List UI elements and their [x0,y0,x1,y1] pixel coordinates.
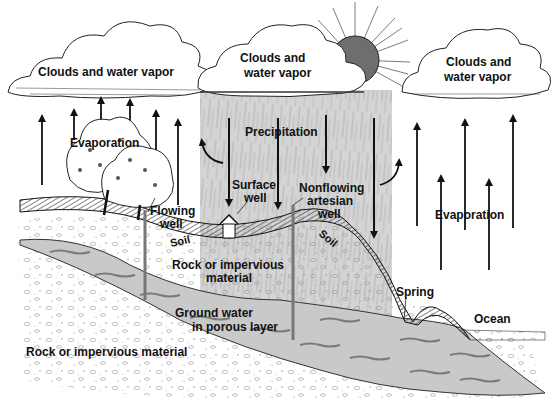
label-groundwater-2: in porous layer [192,321,278,334]
label-nonflowing-3: well [318,208,341,221]
evaporation-arrows-right [417,118,513,270]
label-clouds-center-2: water vapor [244,67,311,80]
label-rock-upper-2: material [206,272,252,285]
label-clouds-left: Clouds and water vapor [38,66,174,79]
label-surface-well-2: well [244,192,267,205]
label-ocean: Ocean [474,313,511,326]
label-precipitation: Precipitation [245,126,318,139]
label-evaporation-left: Evaporation [70,137,139,150]
label-clouds-right-1: Clouds and [446,56,511,69]
label-clouds-right-2: water vapor [444,71,511,84]
label-groundwater-1: Ground water [175,307,253,320]
label-clouds-center-1: Clouds and [240,52,305,65]
clouds-left [8,22,213,98]
label-spring: Spring [396,286,434,299]
ocean [462,330,545,340]
label-rock-lower: Rock or impervious material [26,346,187,359]
water-cycle-diagram: Clouds and water vapor Clouds and water … [0,0,558,419]
label-evaporation-right: Evaporation [435,209,504,222]
label-flowing-well-2: well [160,218,183,231]
